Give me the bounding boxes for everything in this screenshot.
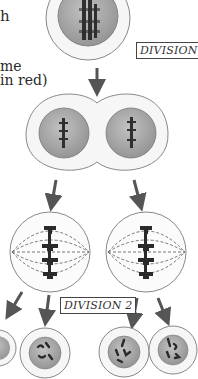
gamete-cell-4 [149,326,197,374]
gamete-cell-2 [20,328,70,378]
parent-cell [46,0,130,60]
chromosome-icon [79,0,100,40]
arrow-icon [10,292,22,312]
metaphase-cell-right [106,212,186,292]
division1-daughter-cells [26,94,168,170]
arrow-icon [46,295,49,318]
arrow-icon [158,298,166,318]
division2-label: DIVISION 2 [60,297,136,314]
arrow-icon [52,180,56,203]
gamete-cell-1 [0,330,16,366]
arrow-icon [134,180,140,203]
metaphase-cell-left [10,212,90,292]
division1-label: DIVISION 1 [136,42,198,59]
gamete-cell-3 [99,327,149,377]
